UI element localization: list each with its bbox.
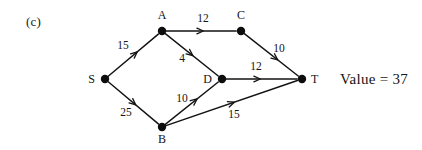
edge-s-to-a: [108, 34, 158, 76]
edge-weight-d-t: 12: [250, 60, 262, 72]
edge-weight-s-a: 15: [117, 39, 129, 51]
edge-weight-s-b: 25: [120, 106, 132, 118]
edge-weight-a-d: 4: [179, 52, 185, 64]
node-label-c: C: [237, 8, 245, 22]
edge-b-to-d: [165, 82, 218, 124]
node-a: [158, 27, 166, 35]
node-label-s: S: [88, 72, 95, 86]
value-annotation: Value = 37: [340, 71, 408, 88]
figure-canvas: (c) 152512410121015 SACDBT Value = 37: [0, 0, 422, 150]
node-label-b: B: [158, 132, 166, 146]
node-s: [101, 75, 109, 83]
edge-weight-b-t: 15: [228, 108, 240, 120]
node-d: [218, 75, 226, 83]
node-label-a: A: [158, 8, 167, 22]
edge-weight-c-t: 10: [273, 42, 285, 54]
nodes-layer: SACDBT: [88, 8, 319, 146]
node-c: [237, 27, 245, 35]
edge-weight-b-d: 10: [176, 92, 188, 104]
edge-weight-a-c: 12: [197, 12, 209, 24]
node-b: [158, 123, 166, 131]
edge-weight-labels-layer: 152512410121015: [117, 12, 285, 120]
node-label-d: D: [203, 72, 212, 86]
node-t: [298, 75, 306, 83]
edge-s-to-b: [108, 82, 158, 124]
node-label-t: T: [311, 72, 319, 86]
